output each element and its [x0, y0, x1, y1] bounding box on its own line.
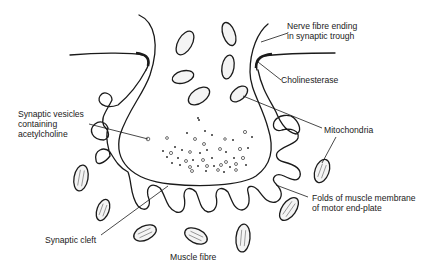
label-folds-line2: of motor end-plate [312, 203, 382, 213]
label-folds-line1: Folds of muscle membrane [312, 193, 416, 203]
label-synaptic-cleft: Synaptic cleft [45, 235, 97, 245]
label-nerve-fibre-line1: Nerve fibre ending [287, 21, 357, 31]
mitochondrion [220, 54, 236, 80]
label-cholinesterase: Cholinesterase [281, 75, 339, 85]
synaptic-vesicles [146, 117, 253, 173]
mitochondrion [171, 68, 195, 85]
leader-lines [89, 33, 336, 235]
mitochondrion [94, 198, 113, 223]
label-nerve-fibre-line2: in synaptic trough [287, 31, 355, 41]
mitochondrion [131, 222, 159, 245]
labels: Nerve fibre ending in synaptic trough Ch… [18, 21, 416, 262]
label-vesicles-line1: Synaptic vesicles [18, 109, 84, 119]
right-trough-edge [256, 53, 335, 70]
mitochondrion [227, 83, 250, 105]
mitochondrion [311, 157, 332, 184]
label-vesicles-line3: acetylcholine [18, 129, 68, 139]
mitochondrion [72, 164, 90, 192]
mitochondrion [185, 83, 213, 108]
left-trough-edge [70, 53, 149, 70]
label-vesicles-line2: containing [18, 119, 57, 129]
neuromuscular-junction-diagram: Nerve fibre ending in synaptic trough Ch… [0, 0, 438, 274]
label-mitochondria: Mitochondria [324, 125, 373, 135]
mitochondrion [182, 225, 210, 248]
mitochondrion [172, 28, 197, 58]
mitochondrion [235, 223, 251, 252]
mitochondria [72, 21, 333, 253]
mitochondrion [219, 21, 238, 48]
label-muscle-fibre: Muscle fibre [170, 252, 217, 262]
